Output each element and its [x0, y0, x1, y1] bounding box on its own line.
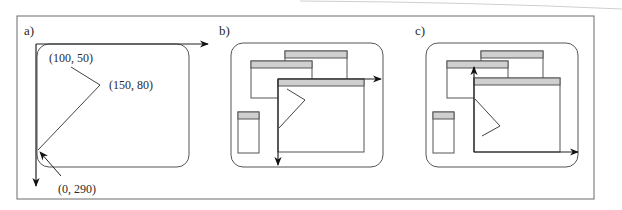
window-front [474, 78, 560, 152]
title-bar [251, 61, 312, 68]
title-bar [238, 112, 259, 119]
title-bar [447, 61, 508, 68]
pointer-arrow [40, 152, 61, 176]
window-small [433, 112, 454, 153]
point-label-0-290: (0, 290) [58, 182, 96, 196]
scan-artifact [300, 1, 622, 9]
panel-c: c) [415, 23, 578, 167]
title-bar [285, 51, 347, 58]
title-bar [481, 51, 543, 58]
panel-c-label: c) [415, 23, 425, 38]
diagram-canvas: a) (100, 50) (150, 80) (0, 290) b) [0, 0, 622, 210]
polyline-shape [38, 67, 100, 150]
title-bar [433, 112, 454, 119]
panel-a: a) (100, 50) (150, 80) (0, 290) [24, 23, 208, 196]
title-bar [278, 79, 364, 86]
title-bar [474, 78, 560, 85]
panel-b: b) [219, 23, 383, 167]
window-small [238, 112, 259, 153]
point-label-150-80: (150, 80) [109, 78, 153, 92]
panel-b-label: b) [219, 23, 230, 38]
panel-a-label: a) [24, 23, 34, 38]
point-label-100-50: (100, 50) [49, 51, 93, 65]
